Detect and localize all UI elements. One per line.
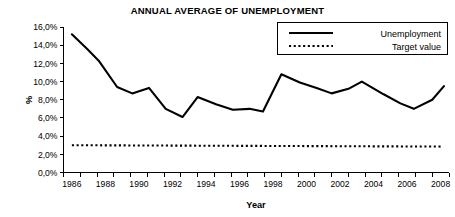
x-tick-label: 1996 <box>230 179 249 189</box>
y-axis-title: % <box>24 96 34 104</box>
x-axis-ticks: 1986198819901992199419961998200020022004… <box>62 173 450 190</box>
x-tick-label: 1994 <box>196 179 215 189</box>
y-tick-label: 10,0% <box>33 77 58 87</box>
y-tick-label: 2,0% <box>38 150 58 160</box>
y-tick-label: 0,0% <box>38 168 58 178</box>
legend-label-unemployment: Unemployment <box>380 29 441 39</box>
y-axis-ticks: 0,0%2,0%4,0%6,0%8,0%10,0%12,0%14,0%16,0% <box>33 22 63 178</box>
legend-label-target-value: Target value <box>392 42 441 52</box>
x-tick-label: 1986 <box>62 179 81 189</box>
chart-figure: ANNUAL AVERAGE OF UNEMPLOYMENT 0,0%2,0%4… <box>0 0 455 217</box>
x-tick-label: 1990 <box>129 179 148 189</box>
y-tick-label: 12,0% <box>33 59 58 69</box>
x-tick-label: 1992 <box>163 179 182 189</box>
x-tick-label: 1998 <box>263 179 282 189</box>
x-axis-title: Year <box>246 200 266 210</box>
x-tick-label: 2006 <box>398 179 417 189</box>
x-tick-label: 1988 <box>96 179 115 189</box>
y-tick-label: 8,0% <box>38 95 58 105</box>
y-tick-label: 14,0% <box>33 40 58 50</box>
y-tick-label: 4,0% <box>38 131 58 141</box>
x-tick-label: 2008 <box>431 179 450 189</box>
y-tick-label: 6,0% <box>38 113 58 123</box>
y-tick-label: 16,0% <box>33 22 58 32</box>
chart-legend: Unemployment Target value <box>278 23 448 55</box>
x-tick-label: 2002 <box>330 179 349 189</box>
series-line-target-value <box>72 145 441 146</box>
x-tick-label: 2000 <box>297 179 316 189</box>
chart-plot-area: 0,0%2,0%4,0%6,0%8,0%10,0%12,0%14,0%16,0%… <box>0 0 455 217</box>
x-tick-label: 2004 <box>364 179 383 189</box>
